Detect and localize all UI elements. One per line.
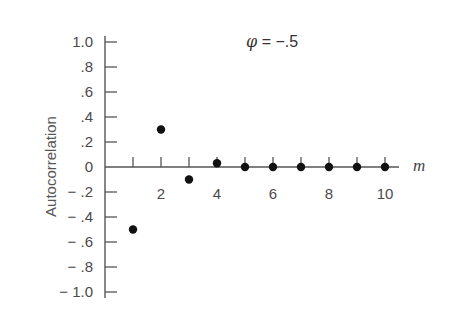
data-point — [381, 163, 389, 171]
phi-value: = −.5 — [262, 33, 298, 50]
y-tick-label: .4 — [33, 108, 93, 125]
data-point — [325, 163, 333, 171]
autocorrelation-chart: Autocorrelation φ = −.5 m 1.0.8.6.4.20− … — [0, 0, 459, 312]
y-tick-label: 0 — [33, 158, 93, 175]
x-tick-label: 8 — [314, 185, 344, 202]
data-point — [129, 225, 137, 233]
x-tick-label: 6 — [258, 185, 288, 202]
x-axis-label: m — [413, 156, 425, 176]
data-point — [241, 163, 249, 171]
x-tick-label: 10 — [370, 185, 400, 202]
y-tick-label: 1.0 — [33, 33, 93, 50]
y-tick-label: − .4 — [33, 208, 93, 225]
y-tick-label: .8 — [33, 58, 93, 75]
y-tick-label: − .6 — [33, 233, 93, 250]
y-tick-label: .2 — [33, 133, 93, 150]
y-tick-label: − .8 — [33, 258, 93, 275]
y-tick-label: − .2 — [33, 183, 93, 200]
data-point — [297, 163, 305, 171]
data-point — [157, 125, 165, 133]
y-tick-label: .6 — [33, 83, 93, 100]
data-point — [353, 163, 361, 171]
y-tick-label: − 1.0 — [33, 283, 93, 300]
data-point — [185, 175, 193, 183]
phi-symbol: φ — [246, 32, 257, 51]
data-point — [269, 163, 277, 171]
x-tick-label: 2 — [146, 185, 176, 202]
x-tick-label: 4 — [202, 185, 232, 202]
phi-annotation: φ = −.5 — [246, 32, 298, 51]
data-point — [213, 159, 221, 167]
